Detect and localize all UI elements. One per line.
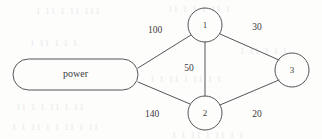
edge-weight-power-n2: 140 [145,109,160,119]
graph-diagram: power123 100140503020 [0,0,322,139]
edge-n1-n3 [220,34,279,60]
edge-power-n2 [138,82,190,104]
node-n1[interactable]: 1 [188,8,222,42]
node-n2[interactable]: 2 [188,96,222,130]
edges-group [138,34,279,105]
edge-weight-n1-n3: 30 [252,22,262,32]
node-power[interactable]: power [13,59,138,90]
diagram-canvas: 1 11 1 11 11111 1 1 1 11 11 11 1 1 11 11… [0,0,322,139]
node-power-label: power [63,68,89,79]
node-n1-label: 1 [203,20,208,30]
edge-labels-group: 100140503020 [145,22,262,119]
edge-weight-n2-n3: 20 [252,109,262,119]
node-n3[interactable]: 3 [275,53,309,87]
edge-n2-n3 [220,80,279,105]
edge-weight-n1-n2: 50 [184,63,194,73]
edge-weight-power-n1: 100 [148,25,163,35]
edge-power-n1 [138,35,191,68]
node-n2-label: 2 [203,108,208,118]
node-n3-label: 3 [290,65,295,75]
